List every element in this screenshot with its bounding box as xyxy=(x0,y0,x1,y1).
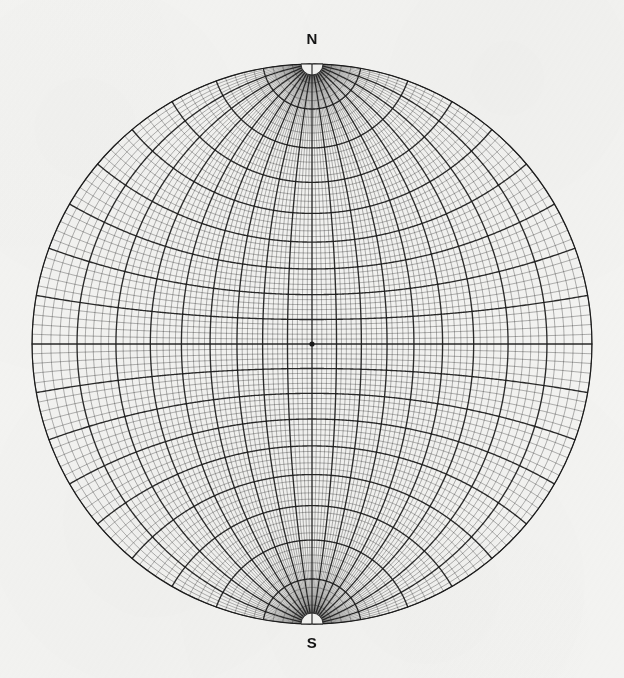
north-pole-label: N xyxy=(292,30,332,47)
center-point-marker xyxy=(309,341,314,346)
wulff-net-graphic xyxy=(0,0,624,678)
south-pole-label: S xyxy=(292,634,332,651)
stereonet-figure: N S xyxy=(0,0,624,678)
